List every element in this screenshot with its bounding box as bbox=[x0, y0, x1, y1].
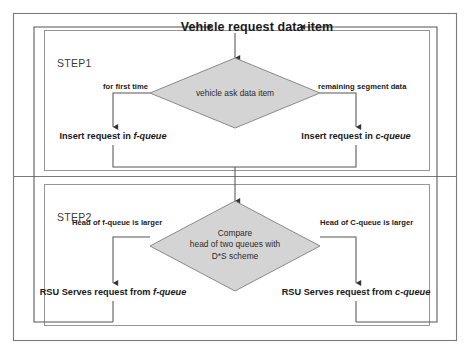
step1-merge-to-step2 bbox=[113, 145, 356, 167]
branch-label-step1-left: for first time bbox=[103, 83, 148, 92]
feedback-loop-right bbox=[300, 27, 437, 322]
decision2-text-block: Compare head of two queues with D*S sche… bbox=[145, 228, 325, 262]
action-step1-right-queue: c-queue bbox=[375, 131, 410, 141]
action-step2-right-prefix: RSU Serves request from bbox=[282, 287, 395, 297]
branch-label-step2-right: Head of C-queue is larger bbox=[320, 219, 413, 228]
action-step2-left: RSU Serves request from f-queue bbox=[40, 287, 187, 298]
decision2-line-1: Compare bbox=[145, 228, 325, 239]
action-step2-right: RSU Serves request from c-queue bbox=[282, 287, 431, 298]
action-step1-right-prefix: Insert request in bbox=[301, 131, 375, 141]
decision2-line-3: D*S scheme bbox=[145, 251, 325, 262]
decision1-right-branch bbox=[320, 93, 356, 127]
decision1-text: vehicle ask data item bbox=[150, 88, 320, 99]
flowchart-diagram: Vehicle request data item STEP1 STEP2 ve… bbox=[0, 0, 471, 355]
decision1-left-branch bbox=[113, 93, 150, 127]
action-step1-left-queue: f-queue bbox=[133, 131, 166, 141]
action-step1-left: Insert request in f-queue bbox=[59, 131, 166, 142]
action-step1-left-prefix: Insert request in bbox=[59, 131, 133, 141]
step1-label: STEP1 bbox=[57, 57, 92, 69]
action-step1-right: Insert request in c-queue bbox=[301, 131, 410, 142]
action-step2-left-prefix: RSU Serves request from bbox=[40, 287, 153, 297]
flowchart-vector-layer bbox=[0, 0, 471, 355]
action-step2-right-queue: c-queue bbox=[395, 287, 430, 297]
feedback-loop-left bbox=[34, 27, 213, 322]
branch-label-step2-left: Head of f-queue is larger bbox=[72, 219, 162, 228]
decision2-right-branch bbox=[320, 237, 356, 283]
branch-label-step1-right: remaining segment data bbox=[318, 83, 406, 92]
decision2-line-2: head of two queues with bbox=[145, 239, 325, 250]
diagram-title: Vehicle request data item bbox=[181, 20, 334, 34]
action-step2-left-queue: f-queue bbox=[153, 287, 186, 297]
